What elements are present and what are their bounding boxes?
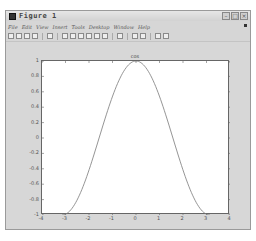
- new-figure-icon[interactable]: [8, 33, 14, 39]
- dock-arrow-icon[interactable]: [244, 24, 247, 27]
- menu-insert[interactable]: Insert: [52, 24, 67, 30]
- menu-window[interactable]: Window: [114, 24, 134, 30]
- y-tick-label: 1: [25, 57, 39, 63]
- rotate-3d-icon[interactable]: [86, 33, 92, 39]
- menu-help[interactable]: Help: [138, 24, 150, 30]
- hide-plot-tools-icon[interactable]: [155, 33, 161, 39]
- y-tick-label: -0.2: [25, 149, 39, 155]
- x-tick-label: 1: [153, 215, 165, 221]
- show-plot-tools-icon[interactable]: [163, 33, 169, 39]
- brush-icon[interactable]: [102, 33, 108, 39]
- cos-curve-plot: [42, 61, 230, 215]
- menu-file[interactable]: File: [8, 24, 18, 30]
- zoom-out-icon[interactable]: [70, 33, 76, 39]
- x-tick-label: 0: [129, 215, 141, 221]
- figure-window: Figure 1 – □ × File Edit View Insert Too…: [5, 10, 251, 230]
- window-controls: – □ ×: [222, 12, 248, 20]
- legend-icon[interactable]: [140, 33, 146, 39]
- y-tick-label: -0.4: [25, 165, 39, 171]
- figure-toolbar: [6, 31, 250, 42]
- plot-title: cos: [125, 53, 145, 59]
- toolbar-separator: [42, 33, 43, 40]
- y-tick-label: 0.2: [25, 119, 39, 125]
- toolbar-separator: [112, 33, 113, 40]
- x-tick-label: -2: [82, 215, 94, 221]
- title-bar[interactable]: Figure 1 – □ ×: [6, 11, 250, 21]
- matlab-figure-icon: [9, 13, 16, 20]
- colorbar-icon[interactable]: [132, 33, 138, 39]
- toolbar-separator: [57, 33, 58, 40]
- toolbar-separator: [150, 33, 151, 40]
- figure-canvas: cos 10.80.60.40.20-0.2-0.4-0.6-0.8-1 -4-…: [6, 42, 250, 229]
- y-tick-label: 0.6: [25, 88, 39, 94]
- menu-view[interactable]: View: [36, 24, 48, 30]
- window-title: Figure 1: [19, 12, 57, 20]
- print-icon[interactable]: [32, 33, 38, 39]
- y-tick-label: -0.8: [25, 196, 39, 202]
- y-tick-label: 0: [25, 134, 39, 140]
- pan-hand-icon[interactable]: [78, 33, 84, 39]
- y-tick-label: 0.4: [25, 103, 39, 109]
- x-tick-label: 4: [223, 215, 235, 221]
- minimize-button[interactable]: –: [222, 12, 230, 20]
- maximize-button[interactable]: □: [231, 12, 239, 20]
- x-tick-label: 2: [176, 215, 188, 221]
- close-button[interactable]: ×: [240, 12, 248, 20]
- data-cursor-icon[interactable]: [94, 33, 100, 39]
- toolbar-separator: [127, 33, 128, 40]
- menu-edit[interactable]: Edit: [22, 24, 32, 30]
- menu-bar: File Edit View Insert Tools Desktop Wind…: [6, 22, 250, 31]
- menu-desktop[interactable]: Desktop: [89, 24, 110, 30]
- link-plot-icon[interactable]: [117, 33, 123, 39]
- plot-axes[interactable]: [41, 60, 229, 214]
- x-tick-label: -4: [35, 215, 47, 221]
- x-tick-label: -3: [59, 215, 71, 221]
- x-tick-label: 3: [200, 215, 212, 221]
- x-tick-label: -1: [106, 215, 118, 221]
- y-tick-label: -0.6: [25, 180, 39, 186]
- menu-tools[interactable]: Tools: [72, 24, 85, 30]
- edit-plot-arrow-icon[interactable]: [47, 33, 53, 39]
- y-tick-label: 0.8: [25, 72, 39, 78]
- open-file-icon[interactable]: [16, 33, 22, 39]
- zoom-in-icon[interactable]: [62, 33, 68, 39]
- save-icon[interactable]: [24, 33, 30, 39]
